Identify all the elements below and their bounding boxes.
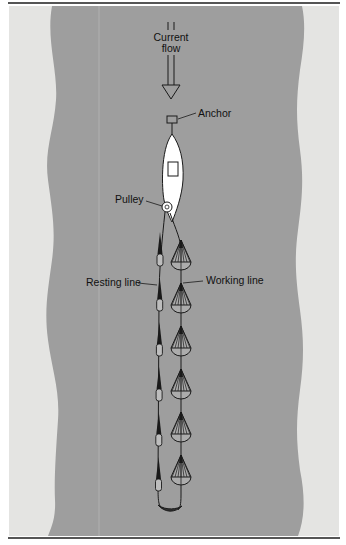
anchor-label: Anchor xyxy=(198,107,232,119)
fishing-net-diagram: Current flow Anchor Pulley Resting line … xyxy=(0,0,346,545)
flow-label: flow xyxy=(162,42,181,54)
pulley-label: Pulley xyxy=(115,193,144,205)
working-line-label: Working line xyxy=(206,274,264,286)
pulley-icon xyxy=(162,202,172,212)
resting-line-label: Resting line xyxy=(86,276,141,288)
